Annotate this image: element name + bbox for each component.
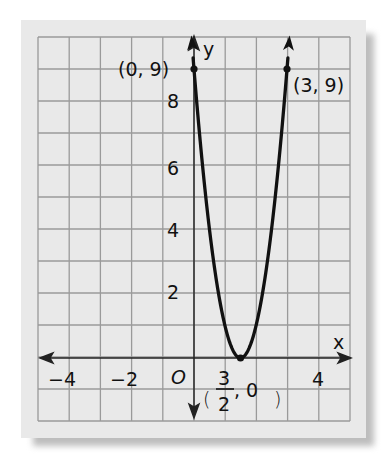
x-tick-neg4: −4 bbox=[48, 368, 76, 390]
x-tick-4: 4 bbox=[312, 368, 324, 390]
vertex-close-paren: ) bbox=[274, 388, 281, 410]
y-tick-8: 8 bbox=[167, 90, 179, 112]
parabola-plot: y x −4 −2 O 4 2 4 6 8 (0, 9) (3, 9) ( 3 … bbox=[0, 0, 389, 460]
point-label-3-9: (3, 9) bbox=[293, 74, 344, 96]
x-axis bbox=[40, 353, 351, 363]
vertex-point bbox=[237, 354, 244, 361]
point-3-9 bbox=[283, 65, 290, 72]
y-tick-4: 4 bbox=[167, 219, 179, 241]
vertex-rest: , 0 bbox=[234, 379, 258, 401]
y-axis-label: y bbox=[203, 38, 214, 60]
vertex-open-paren: ( bbox=[203, 388, 210, 410]
curve-right-arrow-icon bbox=[283, 35, 294, 50]
vertex-denominator: 2 bbox=[218, 393, 230, 415]
point-0-9 bbox=[190, 65, 197, 72]
y-tick-6: 6 bbox=[167, 157, 179, 179]
x-axis-label: x bbox=[333, 331, 344, 353]
vertex-label: ( 3 2 , 0 ) bbox=[203, 367, 281, 415]
vertex-numerator: 3 bbox=[218, 367, 230, 389]
y-tick-2: 2 bbox=[167, 281, 179, 303]
point-label-0-9: (0, 9) bbox=[118, 58, 169, 80]
parabola-curve bbox=[193, 58, 288, 358]
origin-label: O bbox=[171, 366, 186, 388]
x-tick-neg2: −2 bbox=[110, 368, 138, 390]
